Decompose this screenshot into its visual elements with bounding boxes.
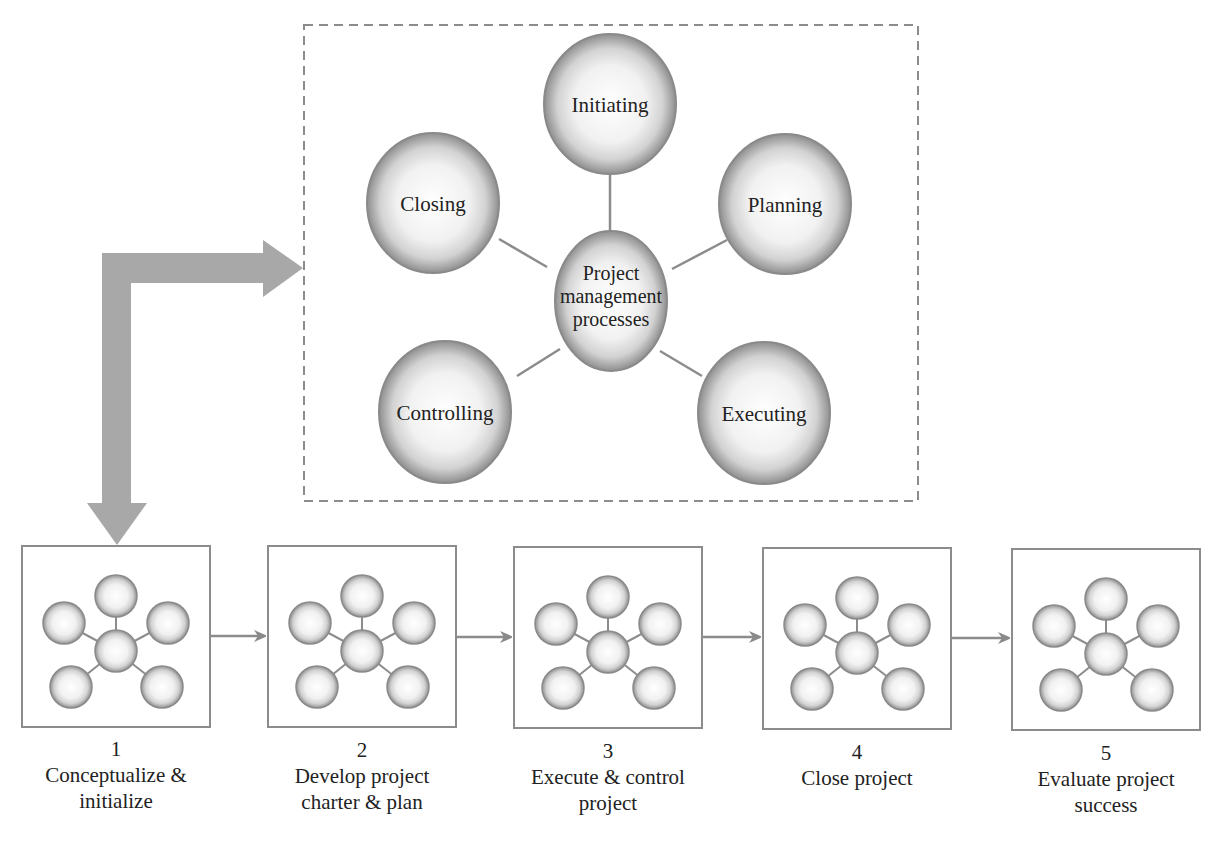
mini-cluster-3 [535,576,681,709]
step-number: 4 [747,739,967,765]
hub-label-line-1: Project [551,262,671,285]
step-title-line-1: Develop project [252,763,472,789]
step-caption-1: 1 Conceptualize & initialize [6,736,226,814]
step-title-line-2: initialize [6,788,226,814]
process-label-planning: Planning [720,192,850,218]
mini-cluster-2 [289,575,435,708]
mini-cluster-4 [784,577,930,710]
process-label-initiating: Initiating [545,92,675,118]
process-label-executing: Executing [699,401,829,427]
hub-label: Project management processes [551,262,671,331]
process-label-closing: Closing [368,191,498,217]
hub-label-line-3: processes [551,308,671,331]
l-shaped-arrow [87,240,303,545]
process-label-controlling: Controlling [380,400,510,426]
mini-cluster-1 [43,575,189,708]
step-caption-5: 5 Evaluate project success [996,740,1216,818]
step-title-line-1: Conceptualize & [6,762,226,788]
step-caption-4: 4 Close project [747,739,967,791]
step-number: 1 [6,736,226,762]
step-title-line-1: Close project [747,765,967,791]
step-caption-2: 2 Develop project charter & plan [252,737,472,815]
step-title-line-1: Execute & control [498,764,718,790]
step-caption-3: 3 Execute & control project [498,738,718,816]
step-title-line-2: project [498,790,718,816]
step-title-line-2: success [996,792,1216,818]
hub-label-line-2: management [551,285,671,308]
step-number: 2 [252,737,472,763]
step-title-line-2: charter & plan [252,789,472,815]
step-title-line-1: Evaluate project [996,766,1216,792]
step-number: 3 [498,738,718,764]
step-number: 5 [996,740,1216,766]
diagram-canvas [0,0,1223,853]
mini-cluster-5 [1033,578,1179,711]
